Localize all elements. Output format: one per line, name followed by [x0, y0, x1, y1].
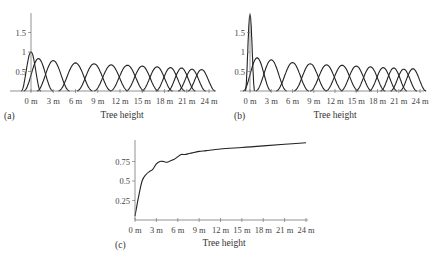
panel-a-chart: 0 m3 m6 m9 m12 m15 m18 m21 m24 m0.511.5 … [4, 13, 218, 122]
x-tick-label: 3 m [47, 96, 60, 106]
y-tick-label: 1 [241, 47, 245, 57]
panel-b-xlabel: Tree height [313, 110, 357, 120]
panel-c-label: (c) [115, 240, 126, 251]
panel-a-curves [21, 52, 215, 91]
data-curve [37, 61, 70, 91]
y-tick-label: 0.5 [15, 67, 26, 77]
x-tick-label: 12 m [212, 225, 230, 235]
data-curve [294, 64, 327, 91]
panel-c-xlabel: Tree height [202, 238, 246, 248]
x-tick-label: 12 m [111, 96, 129, 106]
y-tick-label: 0.5 [119, 176, 130, 186]
x-tick-label: 6 m [286, 96, 299, 106]
x-tick-label: 9 m [307, 96, 320, 106]
data-curve [156, 68, 185, 91]
x-tick-label: 3 m [265, 96, 278, 106]
panel-c-chart: 0 m3 m6 m9 m12 m15 m18 m21 m24 m0.250.50… [115, 140, 315, 251]
data-curve [256, 60, 287, 91]
x-tick-label: 9 m [91, 96, 104, 106]
x-tick-label: 6 m [171, 225, 184, 235]
y-tick-label: 1.5 [234, 28, 245, 38]
x-tick-label: 21 m [390, 96, 408, 106]
x-tick-label: 12 m [326, 96, 344, 106]
x-tick-label: 15 m [134, 96, 152, 106]
panel-a-label: (a) [4, 111, 15, 122]
x-tick-label: 18 m [255, 225, 273, 235]
panel-b-curves [243, 15, 426, 91]
x-tick-label: 0 m [244, 96, 257, 106]
panel-b-chart: 0 m3 m6 m9 m12 m15 m18 m21 m24 m0.511.5 … [234, 13, 429, 122]
x-tick-label: 18 m [156, 96, 174, 106]
panel-c-axes: 0 m3 m6 m9 m12 m15 m18 m21 m24 m0.250.50… [115, 140, 315, 235]
data-curve [276, 63, 309, 92]
x-tick-label: 9 m [193, 225, 206, 235]
x-tick-label: 0 m [129, 225, 142, 235]
panel-a-xlabel: Tree height [100, 110, 144, 120]
panel-c-curves [135, 143, 306, 216]
data-curve [58, 63, 92, 91]
y-tick-label: 1.5 [15, 28, 26, 38]
x-tick-label: 18 m [369, 96, 387, 106]
y-tick-label: 1 [22, 47, 26, 57]
panel-b-label: (b) [234, 111, 245, 122]
data-curve [135, 143, 306, 216]
panel-b-axes: 0 m3 m6 m9 m12 m15 m18 m21 m24 m0.511.5 [234, 13, 429, 106]
x-tick-label: 24 m [297, 225, 315, 235]
x-tick-label: 6 m [69, 96, 82, 106]
x-tick-label: 15 m [348, 96, 366, 106]
y-tick-label: 0.25 [115, 196, 130, 206]
figure: 0 m3 m6 m9 m12 m15 m18 m21 m24 m0.511.5 … [0, 0, 444, 262]
x-tick-label: 3 m [150, 225, 163, 235]
data-curve [188, 70, 216, 92]
data-curve [77, 64, 111, 91]
x-tick-label: 24 m [200, 96, 218, 106]
data-curve [369, 68, 397, 91]
x-tick-label: 21 m [178, 96, 196, 106]
y-tick-label: 0.75 [115, 157, 130, 167]
panel-a-axes: 0 m3 m6 m9 m12 m15 m18 m21 m24 m0.511.5 [10, 13, 218, 106]
x-tick-label: 0 m [25, 96, 38, 106]
y-tick-label: 0.5 [234, 67, 245, 77]
x-tick-label: 21 m [276, 225, 294, 235]
x-tick-label: 24 m [411, 96, 429, 106]
x-tick-label: 15 m [233, 225, 251, 235]
